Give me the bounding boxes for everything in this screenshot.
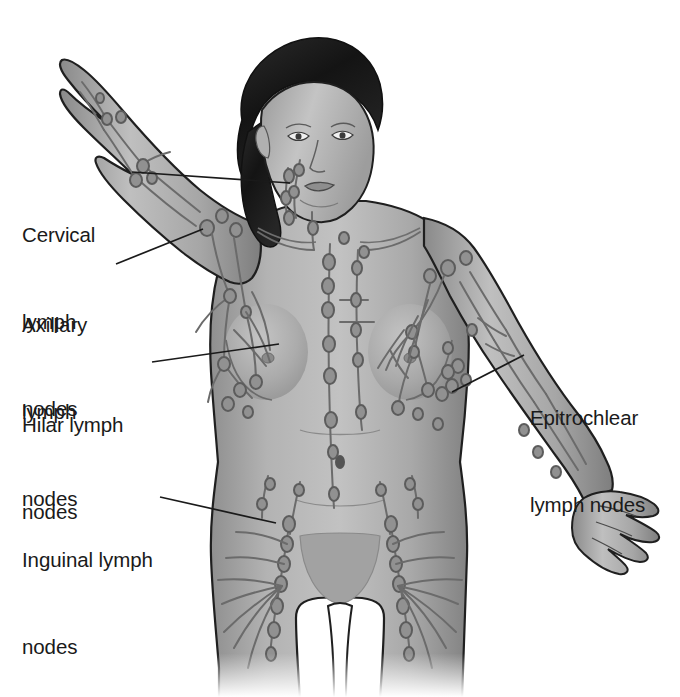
head-shape [261,82,374,222]
bottom-fade [190,600,490,697]
label-inguinal-line2: nodes [22,632,153,661]
label-inguinal-lymph-nodes: Inguinal lymph nodes [22,487,153,697]
label-hilar-line1: Hilar lymph [22,410,123,439]
label-epitrochlear-lymph-nodes: Epitrochlear lymph nodes [530,345,645,577]
label-epitrochlear-line1: Epitrochlear [530,403,645,432]
lymphatic-system-diagram: Cervical lymph nodes Axillary lymph node… [0,0,680,697]
label-axillary-line1: Axillary [22,310,87,339]
label-epitrochlear-line2: lymph nodes [530,490,645,519]
label-cervical-line1: Cervical [22,220,95,249]
label-inguinal-line1: Inguinal lymph [22,545,153,574]
